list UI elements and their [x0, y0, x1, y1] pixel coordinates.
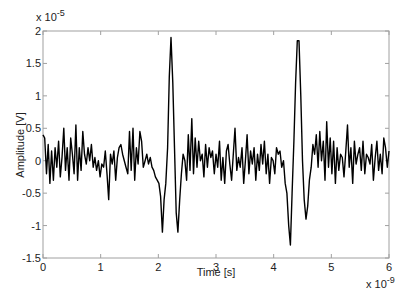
plot-area — [43, 31, 389, 258]
x-axis-title: Time [s] — [197, 266, 236, 278]
x-tick-label: 6 — [386, 261, 392, 273]
y-tick-label: 0.5 — [26, 122, 41, 134]
x-multiplier: x 10-9 — [366, 275, 395, 290]
y-axis-title: Amplitude [V] — [14, 112, 26, 177]
y-tick-label: -1.5 — [22, 252, 41, 264]
x-tick-label: 1 — [98, 261, 104, 273]
y-tick-label: 0 — [35, 155, 41, 167]
y-multiplier: x 10-5 — [36, 8, 65, 23]
y-tick-label: 2 — [35, 25, 41, 37]
x-tick-label: 2 — [155, 261, 161, 273]
y-tick-label: -1 — [31, 220, 41, 232]
y-tick-label: 1.5 — [26, 57, 41, 69]
y-tick-label: -0.5 — [22, 187, 41, 199]
x-tick-label: 4 — [271, 261, 277, 273]
waveform-chart: 0123456 -1.5-1-0.500.511.52 Time [s] Amp… — [0, 0, 411, 302]
x-tick-label: 5 — [328, 261, 334, 273]
y-tick-label: 1 — [35, 90, 41, 102]
